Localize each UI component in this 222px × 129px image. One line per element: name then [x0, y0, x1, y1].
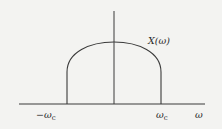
- tick-label-omega-c: ωc: [156, 110, 168, 122]
- tick-subscript: c: [52, 114, 56, 122]
- axis-label-omega: ω: [195, 110, 203, 120]
- curve-label: X(ω): [148, 36, 170, 46]
- tick-subscript: c: [164, 114, 168, 122]
- spectrum-diagram: [0, 0, 222, 129]
- tick-label-neg-omega-c: −ωc: [36, 110, 56, 122]
- tick-symbol: −ω: [36, 109, 52, 120]
- tick-symbol: ω: [156, 109, 164, 120]
